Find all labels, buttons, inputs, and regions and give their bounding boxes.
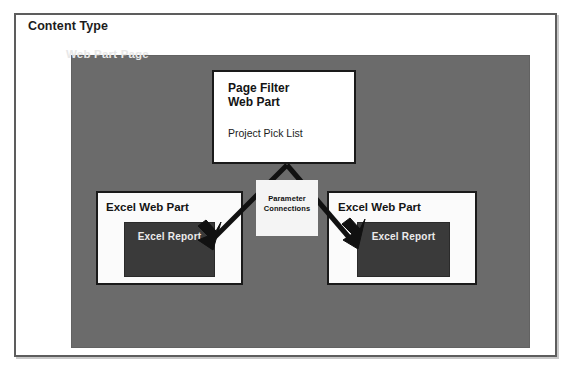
- excel-web-part-left: Excel Web Part Excel Report: [96, 191, 243, 285]
- web-part-page-label: Web Part Page: [66, 48, 149, 60]
- content-type-title: Content Type: [28, 19, 108, 33]
- page-filter-heading: Page Filter Web Part: [228, 81, 289, 109]
- parameter-connections-callout: Parameter Connections: [256, 180, 318, 236]
- diagram-canvas: Content Type Web Part Page Page Filter W…: [0, 0, 570, 370]
- excel-web-part-left-title: Excel Web Part: [106, 201, 189, 213]
- page-filter-web-part-box: Page Filter Web Part Project Pick List: [212, 70, 356, 164]
- excel-report-right-label: Excel Report: [358, 231, 449, 242]
- excel-report-left-label: Excel Report: [125, 231, 214, 242]
- excel-web-part-right-title: Excel Web Part: [338, 201, 421, 213]
- parameter-connections-label: Parameter Connections: [256, 194, 318, 214]
- excel-report-right: Excel Report: [357, 222, 450, 277]
- excel-web-part-right: Excel Web Part Excel Report: [327, 191, 477, 285]
- excel-report-left: Excel Report: [124, 222, 215, 277]
- page-filter-subtitle: Project Pick List: [228, 127, 303, 139]
